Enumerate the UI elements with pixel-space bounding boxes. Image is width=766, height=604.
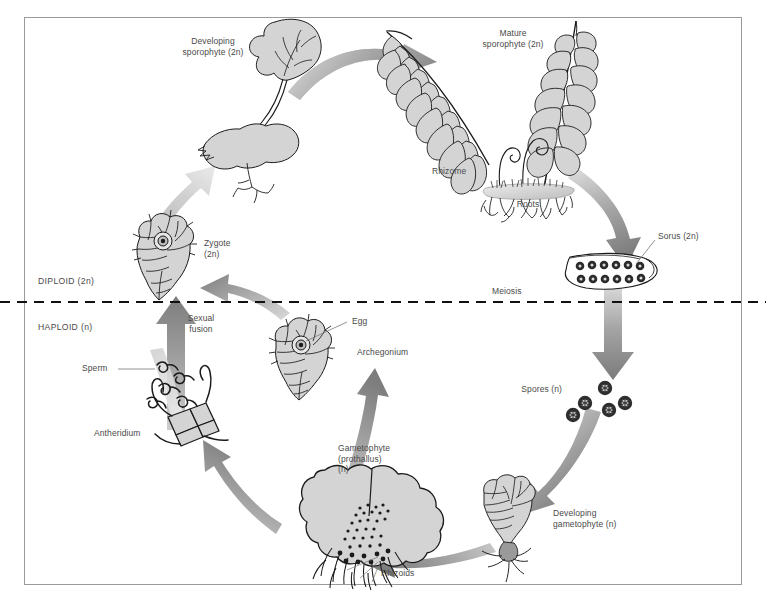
frond-left [376, 31, 489, 194]
fern-life-cycle-illustration [0, 0, 766, 604]
frond-right [527, 21, 598, 188]
arrow-meiosis [592, 286, 634, 380]
arrow-gametophyte-to-antheridium [203, 440, 282, 534]
figure-canvas: Developing sporophyte (2n) Mature sporop… [0, 0, 766, 604]
developing-gametophyte-illustration [482, 475, 535, 582]
arrow-archegonium-to-zygote [200, 274, 290, 320]
rhizome-illustration [481, 178, 574, 222]
gametophyte-illustration [300, 465, 444, 590]
arrow-spores-to-gametophyte [524, 408, 601, 514]
archegonium-illustration [269, 314, 347, 400]
sorus-illustration [565, 240, 657, 289]
zygote-illustration [132, 210, 197, 300]
developing-sporophyte-illustration [198, 19, 321, 203]
roots-illustration [481, 196, 572, 222]
arrow-mature-to-sorus [568, 166, 641, 268]
